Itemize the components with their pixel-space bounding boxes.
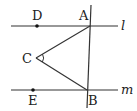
point-e-dot: [31, 88, 35, 92]
segment-cb: [36, 58, 87, 90]
label-line-m: m: [121, 82, 133, 97]
label-line-l: l: [121, 18, 125, 33]
label-c: C: [22, 51, 32, 66]
angle-c-arc: [42, 54, 43, 62]
label-b: B: [88, 93, 98, 108]
label-a: A: [78, 8, 89, 23]
label-d: D: [32, 8, 42, 23]
segment-ca: [36, 26, 90, 58]
geometry-diagram: D A C E B l m: [0, 0, 137, 111]
label-e: E: [28, 93, 38, 108]
point-d-dot: [35, 24, 39, 28]
